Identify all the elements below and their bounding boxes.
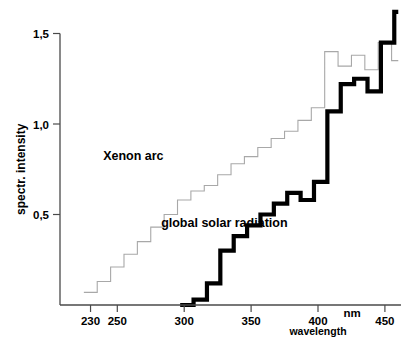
y-tick-label: 0,5 [33, 209, 50, 221]
x-tick-label: 450 [375, 315, 394, 327]
x-tick-label: 250 [108, 315, 127, 327]
series-annotation-global-solar-radiation: global solar radiation [161, 216, 287, 230]
chart-container: 0,51,01,5 230250300350400450 spectr. int… [0, 0, 413, 345]
x-tick-label: 300 [175, 315, 194, 327]
x-axis-title: wavelength [288, 325, 346, 337]
x-tick-label: 230 [81, 315, 100, 327]
x-axis-unit-label: nm [343, 307, 360, 319]
y-tick-label: 1,5 [33, 28, 50, 40]
x-tick-label: 350 [242, 315, 261, 327]
y-tick-label: 1,0 [33, 119, 49, 131]
series-annotation-xenon-arc: Xenon arc [103, 149, 163, 163]
spectral-intensity-chart: 0,51,01,5 230250300350400450 spectr. int… [0, 0, 413, 345]
y-axis-title: spectr. intensity [14, 123, 28, 215]
